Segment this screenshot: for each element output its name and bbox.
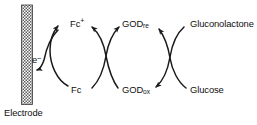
label-mediator-oxidized: Fc+ (70, 19, 84, 29)
arrow-godre-to-glucono (156, 27, 186, 88)
diagram-canvas: Fc+ Fc e– GODre GODox Gluconolactone Glu… (0, 0, 257, 125)
electrode-bar (22, 5, 33, 105)
label-enzyme-reduced: GODre (122, 19, 149, 29)
arrow-fc-to-godre (92, 27, 119, 88)
label-enzyme-oxidized: GODox (122, 85, 150, 95)
label-glucose: Glucose (190, 85, 224, 95)
label-electron: e– (32, 55, 41, 65)
label-gluconolactone: Gluconolactone (190, 19, 254, 29)
label-mediator-reduced: Fc (71, 85, 81, 95)
arrow-fc-to-fcplus (50, 26, 68, 86)
arrow-glucose-to-godox (150, 29, 187, 90)
label-electrode: Electrode (4, 108, 43, 118)
